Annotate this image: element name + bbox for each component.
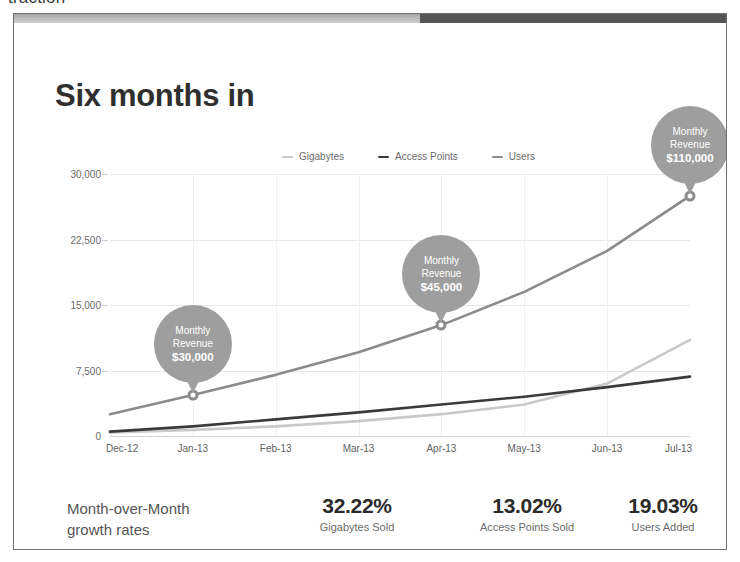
stat-caption: Users Added <box>583 521 727 533</box>
legend-item-users[interactable]: Users <box>492 151 535 162</box>
callout-line1: Monthly <box>424 254 459 267</box>
footer-label: Month-over-Month growth rates <box>67 498 190 540</box>
x-axis-tick-label: Jul-13 <box>665 443 692 454</box>
legend-item-gigabytes[interactable]: Gigabytes <box>282 151 344 162</box>
callout-line2: Revenue <box>421 267 461 280</box>
y-axis-tick-label: 15,000 <box>70 300 101 311</box>
callout-tail <box>186 379 200 393</box>
legend-dash-icon <box>282 156 293 158</box>
y-axis-tick-mark <box>102 174 108 175</box>
y-axis-tick-label: 22,500 <box>70 234 101 245</box>
x-axis-tick-label: Feb-13 <box>260 443 292 454</box>
slide-screenshot: traction Six months in Gigabytes Access … <box>0 0 740 562</box>
stat-value: 19.03% <box>583 494 727 518</box>
callout-tail <box>683 180 697 194</box>
callout-line1: Monthly <box>175 324 210 337</box>
footer-label-line1: Month-over-Month <box>67 498 190 519</box>
y-axis-tick-mark <box>102 305 108 306</box>
callout-line2: Revenue <box>173 337 213 350</box>
line-chart: 30,000 22,500 15,000 7,500 0 Dec-12 Jan-… <box>55 166 705 451</box>
revenue-callout-bubble[interactable]: MonthlyRevenue$30,000 <box>154 305 232 383</box>
stat-users-added: 19.03% Users Added <box>583 494 727 533</box>
x-axis-tick-label: Apr-13 <box>426 443 456 454</box>
y-axis-tick-label: 7,500 <box>76 365 101 376</box>
callout-line1: Monthly <box>672 125 707 138</box>
legend-label: Access Points <box>395 151 458 162</box>
y-axis-tick-label: 30,000 <box>70 169 101 180</box>
stat-value: 32.22% <box>277 494 437 518</box>
y-axis-tick-mark <box>102 371 108 372</box>
callout-amount: $110,000 <box>666 152 713 165</box>
legend-label: Users <box>509 151 535 162</box>
legend-label: Gigabytes <box>299 151 344 162</box>
page-title: Six months in <box>55 78 254 114</box>
callout-amount: $30,000 <box>172 351 214 364</box>
legend-dash-icon <box>378 156 389 158</box>
scrollbar-track-left <box>14 14 420 23</box>
stat-caption: Gigabytes Sold <box>277 521 437 533</box>
callout-tail <box>434 309 448 323</box>
legend-item-access-points[interactable]: Access Points <box>378 151 458 162</box>
footer-stats: Month-over-Month growth rates 32.22% Gig… <box>55 492 703 550</box>
stat-gigabytes-sold: 32.22% Gigabytes Sold <box>277 494 437 533</box>
scrollbar-thumb[interactable] <box>420 14 727 23</box>
x-axis-tick-label: Jun-13 <box>592 443 623 454</box>
chart-legend: Gigabytes Access Points Users <box>282 151 535 162</box>
revenue-callout-bubble[interactable]: MonthlyRevenue$110,000 <box>651 106 727 184</box>
gridline-0 <box>110 436 690 437</box>
footer-label-line2: growth rates <box>67 519 190 540</box>
y-axis-tick-label: 0 <box>95 431 101 442</box>
x-axis-tick-label: Dec-12 <box>106 443 138 454</box>
legend-dash-icon <box>492 156 503 158</box>
y-axis-tick-mark <box>102 240 108 241</box>
top-scrollbar[interactable] <box>14 14 726 23</box>
presentation-slide: Six months in Gigabytes Access Points Us… <box>13 13 727 550</box>
x-axis-tick-label: Jan-13 <box>178 443 209 454</box>
x-axis-tick-label: Mar-13 <box>343 443 375 454</box>
callout-amount: $45,000 <box>421 281 463 294</box>
chart-plot-area: 30,000 22,500 15,000 7,500 0 Dec-12 Jan-… <box>110 174 690 436</box>
clipped-header-text: traction <box>8 0 65 8</box>
callout-line2: Revenue <box>670 138 710 151</box>
revenue-callout-bubble[interactable]: MonthlyRevenue$45,000 <box>402 235 480 313</box>
x-axis-tick-label: May-13 <box>508 443 541 454</box>
